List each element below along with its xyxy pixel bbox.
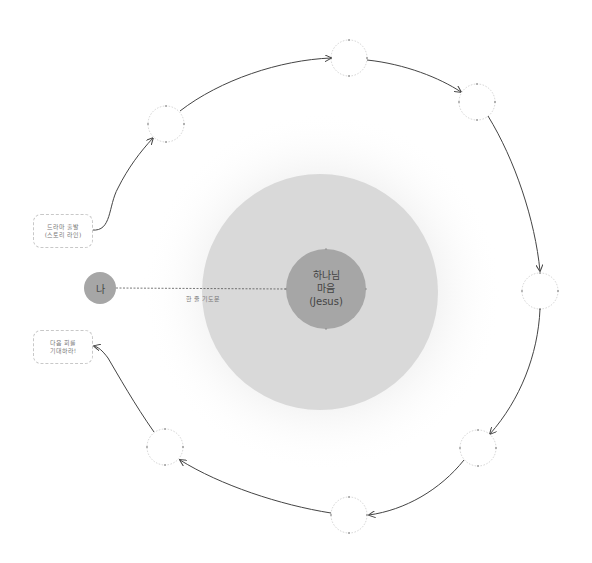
center-label-line3: (Jesus) bbox=[296, 295, 356, 308]
start-box[interactable]: 드라마 출발 (스토리 라인) bbox=[33, 214, 93, 248]
cycle-node-top[interactable] bbox=[331, 40, 367, 76]
arrow-bottom-right-to-bottom bbox=[369, 460, 464, 515]
start-box-line1: 드라마 출발 bbox=[47, 223, 79, 231]
end-box[interactable]: 다음 회를 기대하라! bbox=[33, 330, 93, 364]
end-box-line2: 기대하라! bbox=[50, 347, 76, 355]
cycle-node-right[interactable] bbox=[522, 273, 558, 309]
arrow-start-to-node-top-left bbox=[92, 138, 153, 230]
end-box-line1: 다음 회를 bbox=[50, 339, 76, 347]
center-label-line2: 마음 bbox=[296, 282, 356, 295]
prayer-connector-label: 한 줄 기도문 bbox=[186, 294, 220, 303]
start-box-line2: (스토리 라인) bbox=[45, 231, 82, 239]
cycle-node-top-right[interactable] bbox=[459, 84, 495, 120]
arrow-top-left-to-top bbox=[180, 58, 331, 111]
center-label: 하나님 마음 (Jesus) bbox=[296, 269, 356, 308]
cycle-node-bottom-left[interactable] bbox=[147, 429, 183, 465]
arrow-top-to-top-right bbox=[367, 60, 461, 92]
cycle-node-top-left[interactable] bbox=[148, 106, 184, 142]
arrow-bottom-left-to-end bbox=[94, 346, 154, 432]
center-label-line1: 하나님 bbox=[296, 269, 356, 282]
me-label: 나 bbox=[90, 281, 110, 296]
cycle-node-bottom[interactable] bbox=[331, 497, 367, 533]
cycle-node-bottom-right[interactable] bbox=[460, 430, 496, 466]
